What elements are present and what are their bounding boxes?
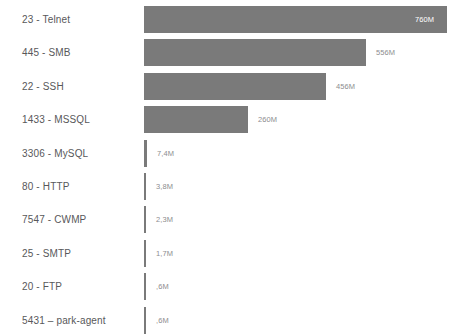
- bar-row: 25 - SMTP1,7M: [0, 240, 466, 267]
- bar[interactable]: [144, 206, 146, 233]
- category-label: 23 - Telnet: [22, 6, 70, 33]
- category-label: 445 - SMB: [22, 39, 71, 66]
- bar-value-label: 260M: [258, 106, 277, 133]
- category-label: 1433 - MSSQL: [22, 106, 90, 133]
- bar-value-label: 3,8M: [156, 173, 173, 200]
- bar-row: 20 - FTP,6M: [0, 273, 466, 300]
- bar-value-label: 760M: [415, 6, 434, 33]
- category-label: 20 - FTP: [22, 273, 62, 300]
- category-label: 80 - HTTP: [22, 173, 69, 200]
- bar[interactable]: [144, 307, 146, 334]
- bar-row: 23 - Telnet760M: [0, 6, 466, 33]
- bar[interactable]: [144, 273, 146, 300]
- bar-value-label: ,6M: [156, 273, 169, 300]
- bar[interactable]: [144, 140, 147, 167]
- bar-row: 1433 - MSSQL260M: [0, 106, 466, 133]
- bar[interactable]: [144, 240, 146, 267]
- bar-row: 7547 - CWMP2,3M: [0, 206, 466, 233]
- bar-row: 22 - SSH456M: [0, 73, 466, 100]
- bar-row: 80 - HTTP3,8M: [0, 173, 466, 200]
- bar-value-label: 456M: [336, 73, 355, 100]
- bar-value-label: 7,4M: [157, 140, 174, 167]
- bar[interactable]: [144, 106, 248, 133]
- category-label: 3306 - MySQL: [22, 140, 88, 167]
- bar-row: 3306 - MySQL7,4M: [0, 140, 466, 167]
- category-label: 5431 – park-agent: [22, 307, 106, 334]
- bar[interactable]: [144, 73, 326, 100]
- bar[interactable]: [144, 6, 447, 33]
- bar-value-label: 2,3M: [156, 206, 173, 233]
- bar-value-label: 556M: [376, 39, 395, 66]
- bar-row: 5431 – park-agent,6M: [0, 307, 466, 334]
- category-label: 25 - SMTP: [22, 240, 71, 267]
- bar[interactable]: [144, 39, 366, 66]
- bar-value-label: ,6M: [156, 307, 169, 334]
- bar-row: 445 - SMB556M: [0, 39, 466, 66]
- bar[interactable]: [144, 173, 146, 200]
- category-label: 22 - SSH: [22, 73, 64, 100]
- category-label: 7547 - CWMP: [22, 206, 86, 233]
- bar-value-label: 1,7M: [156, 240, 173, 267]
